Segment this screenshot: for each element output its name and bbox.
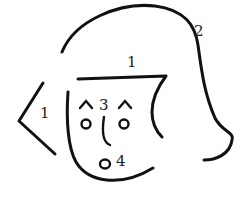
- label-eyes-nose: 3: [99, 96, 109, 114]
- mouth: [100, 160, 110, 169]
- label-mouth: 4: [116, 152, 126, 170]
- label-hair: 2: [194, 22, 204, 40]
- hair-stroke: [62, 5, 232, 160]
- label-bangs: 1: [127, 53, 137, 71]
- nose-stroke: [103, 117, 110, 145]
- right-eyebrow: [119, 101, 131, 108]
- left-eye: [82, 120, 91, 129]
- face-drawing: 2 1 1 3 4: [0, 0, 248, 204]
- ear-stroke: [19, 83, 55, 154]
- label-ear: 1: [40, 104, 50, 122]
- left-eyebrow: [80, 101, 92, 108]
- right-eye: [120, 120, 129, 129]
